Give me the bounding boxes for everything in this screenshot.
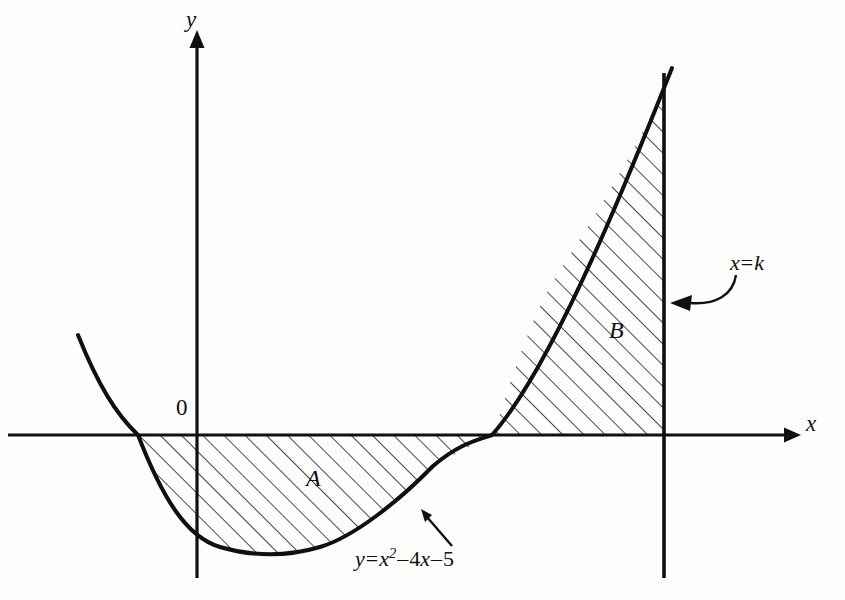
equation-minus-2: – [430,546,443,571]
xk-equals: = [740,250,754,275]
parabola-regions-figure: y x 0 A B x=k y=x2–4x–5 [0,0,845,600]
equation-term3-constant: 5 [443,546,454,571]
curve-equation-label: y=x2–4x–5 [355,548,454,570]
xk-pointer-arrow [670,275,736,311]
y-axis-label: y [186,8,196,31]
xk-variable: x [730,250,740,275]
figure-canvas [0,0,845,600]
equation-minus-1: – [396,546,409,571]
equation-pointer-arrow [421,509,452,546]
equation-lhs: y [355,546,365,571]
xk-value: k [754,250,764,275]
equation-term2-coefficient: 4 [409,546,420,571]
region-b-label: B [609,318,624,342]
x-equals-k-label: x=k [730,252,764,274]
region-a-label: A [306,466,321,490]
equation-term2-variable: x [420,546,430,571]
region-b-shading [480,75,680,445]
x-axis-label: x [806,412,816,435]
equation-equals: = [365,546,379,571]
equation-term1-base: x [379,546,389,571]
origin-label: 0 [176,396,188,419]
